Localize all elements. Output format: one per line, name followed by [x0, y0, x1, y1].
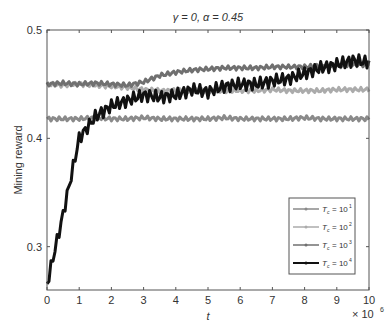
legend-eq-1: = 10 [332, 205, 348, 214]
x-axis-label: t [206, 310, 210, 322]
legend-marker-4 [305, 262, 308, 265]
y-axis-label: Mining reward [12, 125, 24, 194]
line-chart: 0123456789100.30.40.5γ = 0, α = 0.45t× 1… [0, 0, 389, 334]
y-tick-label: 0.5 [27, 24, 42, 36]
x-tick-label: 8 [302, 294, 308, 306]
legend-marker-1 [305, 208, 308, 211]
chart-title: γ = 0, α = 0.45 [173, 11, 244, 23]
chart-container: 0123456789100.30.40.5γ = 0, α = 0.45t× 1… [0, 0, 389, 334]
legend-exp-1: 1 [349, 203, 352, 209]
y-tick-label: 0.3 [27, 241, 42, 253]
legend-exp-3: 3 [349, 239, 352, 245]
legend-exp-4: 4 [349, 257, 352, 263]
x-multiplier-exp: 6 [380, 306, 384, 313]
x-tick-label: 1 [76, 294, 82, 306]
x-tick-label: 3 [141, 294, 147, 306]
legend-eq-2: = 10 [332, 223, 348, 232]
x-tick-label: 6 [237, 294, 243, 306]
x-tick-label: 5 [205, 294, 211, 306]
x-tick-label: 7 [269, 294, 275, 306]
legend-eq-4: = 10 [332, 259, 348, 268]
x-tick-label: 2 [108, 294, 114, 306]
x-tick-label: 10 [363, 294, 375, 306]
x-multiplier: × 10 [352, 308, 374, 320]
legend-marker-2 [305, 226, 308, 229]
legend-exp-2: 2 [349, 221, 352, 227]
x-tick-label: 9 [334, 294, 340, 306]
legend-marker-3 [305, 244, 308, 247]
x-tick-label: 4 [173, 294, 179, 306]
y-tick-label: 0.4 [27, 132, 42, 144]
x-tick-label: 0 [44, 294, 50, 306]
legend-eq-3: = 10 [332, 241, 348, 250]
